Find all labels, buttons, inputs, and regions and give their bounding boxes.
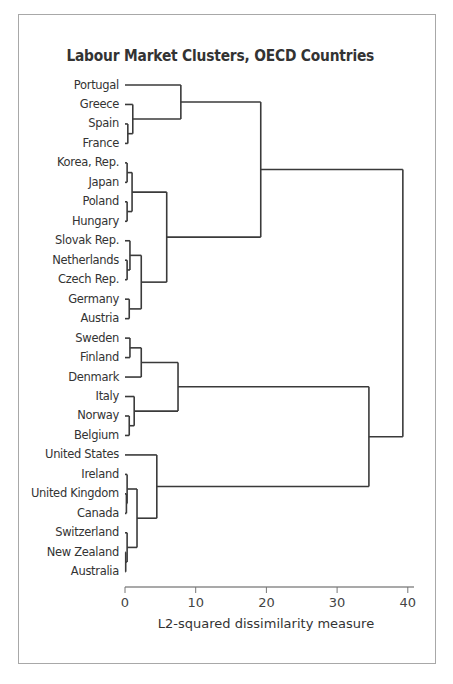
- leaf-label: Korea, Rep.: [57, 155, 119, 169]
- dendrogram-links: [125, 85, 403, 572]
- leaf-label: Ireland: [81, 467, 119, 481]
- leaf-label: France: [83, 136, 120, 150]
- leaf-label: Finland: [80, 350, 119, 364]
- leaf-label: Hungary: [72, 214, 119, 228]
- leaf-label: Portugal: [74, 78, 119, 92]
- leaf-label: New Zealand: [47, 545, 119, 559]
- leaf-label: Greece: [80, 97, 119, 111]
- x-tick-label: 10: [187, 595, 204, 610]
- x-tick-label: 40: [400, 595, 417, 610]
- leaf-label: Poland: [82, 194, 119, 208]
- leaf-label: Japan: [87, 175, 119, 189]
- x-tick-label: 20: [258, 595, 275, 610]
- leaf-label: United Kingdom: [31, 486, 119, 500]
- leaf-label: Belgium: [74, 428, 119, 442]
- leaf-label: Denmark: [68, 370, 119, 384]
- leaf-label: Sweden: [75, 331, 119, 345]
- leaf-label: Austria: [80, 311, 119, 325]
- leaf-label: Switzerland: [55, 525, 119, 539]
- leaf-label: Czech Rep.: [58, 272, 119, 286]
- leaf-label: Netherlands: [52, 253, 119, 267]
- leaf-label: Slovak Rep.: [55, 233, 119, 247]
- leaf-label: Australia: [71, 564, 119, 578]
- x-axis: 010203040: [121, 587, 416, 610]
- leaf-label: Canada: [77, 506, 119, 520]
- leaf-label: United States: [45, 447, 119, 461]
- x-tick-label: 30: [329, 595, 346, 610]
- leaf-label: Spain: [88, 116, 119, 130]
- leaf-label: Norway: [77, 408, 119, 422]
- leaf-label: Germany: [68, 292, 119, 306]
- leaf-label: Italy: [96, 389, 120, 403]
- x-tick-label: 0: [121, 595, 129, 610]
- leaf-labels: PortugalGreeceSpainFranceKorea, Rep.Japa…: [31, 78, 120, 579]
- x-axis-label: L2-squared dissimilarity measure: [158, 616, 374, 631]
- dendrogram: PortugalGreeceSpainFranceKorea, Rep.Japa…: [0, 0, 453, 684]
